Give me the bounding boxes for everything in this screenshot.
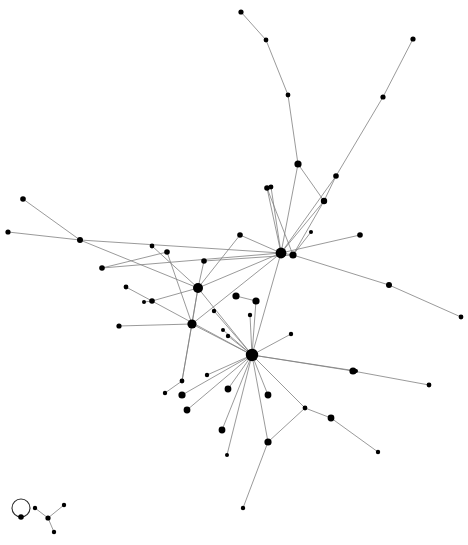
graph-node[interactable]: [354, 369, 358, 373]
graph-node[interactable]: [238, 9, 243, 14]
graph-node[interactable]: [248, 313, 252, 317]
graph-node[interactable]: [289, 251, 296, 258]
graph-edge: [293, 255, 389, 285]
graph-edge: [80, 240, 198, 288]
graph-node[interactable]: [380, 94, 385, 99]
graph-edge: [241, 12, 266, 40]
graph-node[interactable]: [303, 406, 308, 411]
graph-node[interactable]: [289, 332, 293, 336]
graph-edge: [281, 235, 360, 253]
graph-edge: [331, 418, 378, 452]
graph-node[interactable]: [142, 300, 146, 304]
graph-edge: [23, 199, 80, 240]
graph-edge: [187, 355, 252, 410]
graph-edge: [288, 95, 298, 164]
graph-edge: [152, 288, 198, 301]
graph-node[interactable]: [99, 265, 105, 271]
graph-node[interactable]: [18, 514, 24, 520]
network-graph-canvas: [0, 0, 468, 545]
graph-node[interactable]: [226, 334, 230, 338]
graph-node[interactable]: [62, 503, 66, 507]
graph-node[interactable]: [232, 292, 239, 299]
graph-edge: [126, 287, 152, 301]
graph-node[interactable]: [237, 232, 243, 238]
graph-node[interactable]: [264, 38, 269, 43]
graph-edge: [305, 408, 331, 418]
graph-node[interactable]: [180, 379, 185, 384]
graph-node[interactable]: [178, 391, 185, 398]
graph-node[interactable]: [333, 173, 339, 179]
edge-layer: [8, 12, 461, 532]
graph-edge: [281, 164, 298, 253]
graph-node[interactable]: [184, 407, 191, 414]
graph-edge: [48, 505, 64, 518]
graph-edge: [102, 253, 281, 268]
graph-node[interactable]: [33, 506, 37, 510]
graph-node[interactable]: [187, 319, 196, 328]
graph-node[interactable]: [5, 229, 10, 234]
graph-edge: [182, 324, 192, 381]
node-layer: [5, 9, 463, 534]
graph-node[interactable]: [212, 309, 216, 313]
graph-node[interactable]: [164, 249, 170, 255]
graph-node[interactable]: [386, 282, 392, 288]
graph-edge: [252, 355, 268, 395]
graph-node[interactable]: [410, 36, 415, 41]
graph-edge: [167, 252, 192, 324]
graph-node[interactable]: [45, 515, 50, 520]
graph-node[interactable]: [124, 285, 129, 290]
graph-node[interactable]: [149, 298, 155, 304]
graph-node[interactable]: [219, 427, 226, 434]
graph-node[interactable]: [225, 453, 229, 457]
graph-node[interactable]: [221, 328, 225, 332]
graph-edge: [243, 442, 268, 508]
graph-node[interactable]: [193, 283, 203, 293]
graph-edge: [182, 355, 252, 395]
graph-edge: [152, 246, 198, 288]
network-graph-svg: [0, 0, 468, 545]
graph-node[interactable]: [252, 297, 259, 304]
graph-node[interactable]: [459, 315, 464, 320]
graph-node[interactable]: [264, 438, 271, 445]
graph-edge: [324, 176, 336, 201]
graph-edge: [252, 355, 356, 371]
graph-edge: [383, 39, 413, 97]
graph-node[interactable]: [116, 323, 121, 328]
graph-edge: [165, 381, 182, 393]
graph-edge: [281, 176, 336, 253]
graph-node[interactable]: [376, 450, 380, 454]
graph-edge: [8, 232, 80, 240]
graph-node[interactable]: [201, 258, 207, 264]
graph-node[interactable]: [20, 196, 26, 202]
graph-node[interactable]: [321, 198, 327, 204]
graph-edge: [268, 408, 305, 442]
graph-node[interactable]: [205, 373, 209, 377]
graph-edge: [267, 188, 281, 253]
graph-node[interactable]: [269, 185, 274, 190]
graph-node[interactable]: [357, 232, 363, 238]
graph-edge: [266, 40, 288, 95]
graph-node[interactable]: [309, 230, 313, 234]
graph-edge: [298, 164, 324, 201]
graph-edge: [336, 97, 383, 176]
graph-node[interactable]: [427, 383, 432, 388]
graph-node[interactable]: [52, 530, 56, 534]
graph-edge: [80, 240, 281, 253]
graph-node[interactable]: [77, 237, 83, 243]
graph-node[interactable]: [294, 160, 301, 167]
graph-edge: [240, 235, 281, 253]
graph-node[interactable]: [286, 93, 291, 98]
graph-node[interactable]: [150, 244, 155, 249]
graph-node[interactable]: [225, 386, 232, 393]
graph-edge: [214, 311, 252, 355]
graph-edge: [227, 355, 252, 455]
graph-edge: [389, 285, 461, 317]
graph-edge: [192, 253, 281, 324]
graph-node[interactable]: [241, 506, 245, 510]
graph-node[interactable]: [163, 391, 167, 395]
graph-node[interactable]: [265, 392, 272, 399]
graph-node[interactable]: [246, 349, 258, 361]
graph-node[interactable]: [328, 415, 335, 422]
graph-node[interactable]: [276, 248, 287, 259]
graph-edge: [353, 371, 429, 385]
